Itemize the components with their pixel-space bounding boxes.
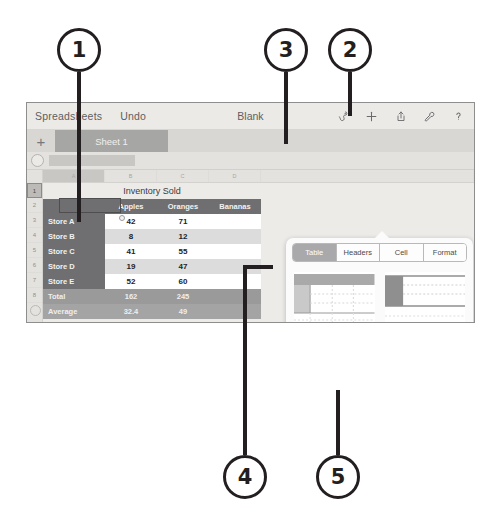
tablet-screen: Spreadsheets Undo Blank <box>26 102 475 323</box>
callout-number: 2 <box>343 38 358 62</box>
undo-button[interactable]: Undo <box>120 110 146 122</box>
footer-cell-bananas[interactable] <box>209 289 261 304</box>
cell-apples[interactable]: 19 <box>105 259 157 274</box>
column-header-a[interactable]: A <box>43 170 105 182</box>
footer-cell-bananas[interactable] <box>209 304 261 319</box>
callout-bubble-5: 5 <box>316 455 360 499</box>
leader-line-3 <box>284 72 288 144</box>
popover-arrow <box>374 231 390 239</box>
row-header-6[interactable]: 6 <box>27 258 42 273</box>
column-header-e[interactable] <box>261 170 474 182</box>
header-cell-bananas[interactable]: Bananas <box>209 199 261 214</box>
leader-line-5 <box>336 390 340 455</box>
footer-label[interactable]: Total <box>43 289 105 304</box>
header-cell-oranges[interactable]: Oranges <box>157 199 209 214</box>
table-footer-row-average[interactable]: Average 32.4 49 <box>43 304 261 319</box>
tab-headers[interactable]: Headers <box>337 244 381 261</box>
callout-number: 4 <box>238 465 253 489</box>
row-label[interactable]: Store D <box>43 259 105 274</box>
table-style-option-1[interactable] <box>294 272 375 323</box>
cell-apples[interactable]: 41 <box>105 244 157 259</box>
cell-bananas[interactable] <box>209 244 261 259</box>
row-label[interactable]: Store B <box>43 229 105 244</box>
sheet-tab-sheet-1[interactable]: Sheet 1 <box>55 130 168 152</box>
cell-oranges[interactable]: 55 <box>157 244 209 259</box>
tools-wrench-icon[interactable] <box>422 109 437 124</box>
column-header-d[interactable]: D <box>209 170 261 182</box>
cell-reference-box[interactable] <box>49 155 135 166</box>
tab-table[interactable]: Table <box>293 244 337 261</box>
row-header-2[interactable]: 2 <box>27 198 42 213</box>
row-header-7[interactable]: 7 <box>27 273 42 288</box>
table-row[interactable]: Store D 19 47 <box>43 259 261 274</box>
row-header-3[interactable]: 3 <box>27 213 42 228</box>
footer-cell-oranges[interactable]: 245 <box>157 289 209 304</box>
toolbar-left-group: Spreadsheets Undo <box>35 110 146 122</box>
cell-apples[interactable]: 52 <box>105 274 157 289</box>
cell-bananas[interactable] <box>209 214 261 229</box>
spreadsheets-back-button[interactable]: Spreadsheets <box>35 110 102 122</box>
row-header-4[interactable]: 4 <box>27 228 42 243</box>
table-row[interactable]: Store C 41 55 <box>43 244 261 259</box>
callout-bubble-2: 2 <box>328 28 372 72</box>
table-footer-row-total[interactable]: Total 162 245 <box>43 289 261 304</box>
row-label[interactable]: Store C <box>43 244 105 259</box>
leader-line-4-horizontal <box>243 265 273 269</box>
cell-oranges[interactable]: 71 <box>157 214 209 229</box>
column-header-b[interactable]: B <box>105 170 157 182</box>
table-style-grid <box>286 266 473 323</box>
function-circle-icon[interactable] <box>31 154 44 167</box>
leader-line-1 <box>77 72 81 222</box>
callout-bubble-4: 4 <box>223 455 267 499</box>
insert-plus-icon[interactable] <box>364 109 379 124</box>
add-sheet-button[interactable]: + <box>27 130 55 152</box>
table-style-option-2[interactable] <box>385 272 466 323</box>
callout-number: 3 <box>279 38 294 62</box>
row-label[interactable]: Store A <box>43 214 105 229</box>
share-icon[interactable] <box>393 109 408 124</box>
cell-bananas[interactable] <box>209 229 261 244</box>
cell-bananas[interactable] <box>209 274 261 289</box>
popover-tab-bar: Table Headers Cell Format <box>292 243 467 262</box>
leader-line-4 <box>243 265 247 455</box>
tab-format[interactable]: Format <box>424 244 467 261</box>
row-header-5[interactable]: 5 <box>27 243 42 258</box>
row-header-column: 1 2 3 4 5 6 7 8 <box>27 170 43 323</box>
help-question-icon[interactable] <box>451 109 466 124</box>
app-toolbar: Spreadsheets Undo Blank <box>27 103 474 130</box>
row-header-8[interactable]: 8 <box>27 288 42 303</box>
callout-number: 1 <box>72 38 87 62</box>
inventory-table: Apples Oranges Bananas Store A 42 71 Sto… <box>43 199 261 319</box>
add-row-circle-icon[interactable] <box>30 305 41 316</box>
cell-oranges[interactable]: 47 <box>157 259 209 274</box>
table-row[interactable]: Store A 42 71 <box>43 214 261 229</box>
callout-bubble-1: 1 <box>57 28 101 72</box>
cell-apples[interactable]: 8 <box>105 229 157 244</box>
cell-oranges[interactable]: 60 <box>157 274 209 289</box>
toolbar-right-group <box>335 109 466 124</box>
tab-cell[interactable]: Cell <box>380 244 424 261</box>
callout-number: 5 <box>331 465 346 489</box>
row-label[interactable]: Store E <box>43 274 105 289</box>
footer-cell-apples[interactable]: 162 <box>105 289 157 304</box>
table-row[interactable]: Store B 8 12 <box>43 229 261 244</box>
formula-bar <box>27 152 474 170</box>
column-header-row: A B C D <box>43 170 474 183</box>
table-title-cell[interactable]: Inventory Sold <box>43 183 261 199</box>
table-row[interactable]: Store E 52 60 <box>43 274 261 289</box>
selected-cell-outline <box>59 198 121 213</box>
format-popover: Table Headers Cell Format <box>286 238 473 323</box>
footer-cell-apples[interactable]: 32.4 <box>105 304 157 319</box>
sheet-tab-bar: + Sheet 1 <box>27 130 474 152</box>
footer-cell-oranges[interactable]: 49 <box>157 304 209 319</box>
column-header-c[interactable]: C <box>157 170 209 182</box>
cell-apples[interactable]: 42 <box>105 214 157 229</box>
selection-handle[interactable] <box>119 215 125 221</box>
footer-label[interactable]: Average <box>43 304 105 319</box>
row-header-1[interactable]: 1 <box>27 183 42 198</box>
leader-line-2 <box>348 72 352 116</box>
cell-oranges[interactable]: 12 <box>157 229 209 244</box>
callout-bubble-3: 3 <box>264 28 308 72</box>
